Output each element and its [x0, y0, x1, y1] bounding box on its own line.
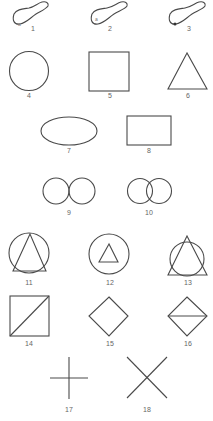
figure-1: a 1: [13, 2, 48, 32]
figure-5: 5: [89, 52, 129, 99]
blob-dot-3: [174, 23, 177, 26]
figure-label-11: 11: [25, 279, 32, 286]
figure-12: 12: [89, 234, 129, 286]
figure-label-9: 9: [67, 209, 71, 216]
figure-label-10: 10: [145, 209, 153, 216]
figure-label-4: 4: [27, 92, 31, 99]
blob-mark-1: a: [18, 21, 21, 27]
figure-label-16: 16: [184, 340, 192, 347]
circle-shape-4: [10, 52, 49, 91]
figure-18: 18: [127, 357, 167, 413]
circle-left-shape-10: [128, 179, 153, 204]
figure-14: 14: [10, 296, 49, 347]
figure-label-13: 13: [184, 279, 192, 286]
circle-right-shape-9: [69, 178, 95, 204]
figure-16: 16: [168, 297, 207, 347]
figure-17: 17: [50, 357, 88, 413]
figure-11: 11: [9, 233, 49, 286]
figure-3: 3: [169, 2, 205, 32]
figure-label-2: 2: [108, 25, 112, 32]
geometric-figures-plate: a 1 a 2 3 4 5 6 7: [0, 0, 213, 421]
figure-8: 8: [127, 116, 171, 154]
figure-label-8: 8: [147, 147, 151, 154]
circle-right-shape-10: [147, 179, 172, 204]
figure-label-7: 7: [67, 147, 71, 154]
figure-label-1: 1: [31, 25, 35, 32]
figure-label-15: 15: [106, 340, 114, 347]
figure-15: 15: [89, 297, 128, 347]
figure-2: a 2: [91, 2, 127, 32]
ellipse-shape-7: [41, 117, 97, 145]
figure-label-3: 3: [187, 25, 191, 32]
triangle-shape-11: [13, 234, 46, 271]
diagonal-line-14: [10, 296, 49, 336]
figure-label-17: 17: [65, 406, 73, 413]
figure-4: 4: [10, 52, 49, 100]
circle-shape-12: [89, 234, 129, 274]
figure-6: 6: [168, 53, 207, 99]
rectangle-shape-8: [127, 116, 171, 145]
circle-left-shape-9: [43, 178, 69, 204]
figure-7: 7: [41, 117, 97, 154]
figure-13: 13: [168, 236, 207, 286]
blob-shape-3: [169, 2, 205, 24]
figure-9: 9: [43, 178, 95, 216]
blob-mark-2: a: [95, 16, 98, 22]
figure-10: 10: [128, 179, 172, 217]
triangle-shape-6: [168, 53, 207, 89]
figure-label-18: 18: [143, 406, 151, 413]
square-shape-5: [89, 52, 129, 91]
triangle-shape-12: [99, 244, 118, 262]
figure-label-14: 14: [25, 340, 33, 347]
diamond-shape-15: [89, 297, 128, 336]
figure-label-12: 12: [106, 279, 114, 286]
figure-label-6: 6: [186, 92, 190, 99]
figure-label-5: 5: [108, 92, 112, 99]
